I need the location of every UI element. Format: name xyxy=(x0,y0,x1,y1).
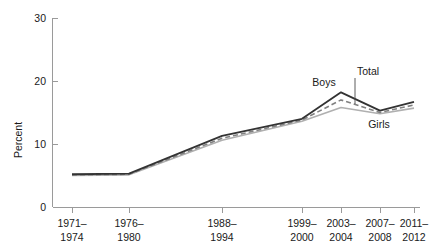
series-label-total: Total xyxy=(357,65,379,77)
x-tick-label-2-top: 1988– xyxy=(207,217,236,229)
x-tick-label-6-bottom: 2012 xyxy=(402,231,426,243)
y-tick-label-20: 20 xyxy=(34,75,46,87)
series-label-boys: Boys xyxy=(312,76,335,88)
x-tick-label-0-top: 1971– xyxy=(57,217,86,229)
x-tick-label-5-bottom: 2008 xyxy=(368,231,392,243)
x-tick-label-2-bottom: 1994 xyxy=(210,231,234,243)
x-tick-label-0-bottom: 1974 xyxy=(60,231,84,243)
x-tick-label-1-top: 1976– xyxy=(114,217,143,229)
obesity-prevalence-line-chart: 30 20 10 0 Percent 1971– 1974 1976– 1980… xyxy=(0,0,429,249)
y-axis-title: Percent xyxy=(12,122,24,158)
x-tick-label-4-top: 2003– xyxy=(326,217,355,229)
x-tick-label-4-bottom: 2004 xyxy=(329,231,353,243)
y-tick-label-10: 10 xyxy=(34,138,46,150)
x-tick-label-5-top: 2007– xyxy=(365,217,394,229)
x-tick-label-3-bottom: 2000 xyxy=(290,231,314,243)
y-tick-label-30: 30 xyxy=(34,12,46,24)
x-tick-label-6-top: 2011– xyxy=(400,217,429,229)
x-tick-label-3-top: 1999– xyxy=(287,217,316,229)
series-label-girls: Girls xyxy=(368,118,390,130)
chart-canvas: 30 20 10 0 Percent 1971– 1974 1976– 1980… xyxy=(0,0,429,249)
y-tick-label-0: 0 xyxy=(40,201,46,213)
x-tick-label-1-bottom: 1980 xyxy=(117,231,141,243)
series-line-girls xyxy=(72,107,414,175)
